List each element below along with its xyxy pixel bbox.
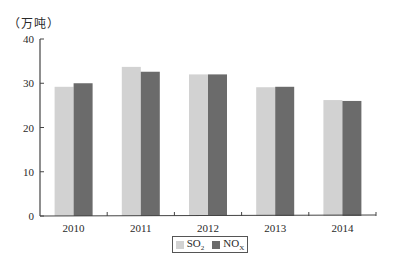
legend-swatch-so2 bbox=[176, 241, 184, 249]
y-tick-label-10: 10 bbox=[23, 166, 35, 178]
bar-nox-2010 bbox=[74, 83, 93, 216]
x-tick-label-2011: 2011 bbox=[130, 222, 152, 234]
y-tick-label-30: 30 bbox=[23, 77, 35, 89]
bar-so2-2013 bbox=[256, 87, 275, 216]
bar-so2-2014 bbox=[323, 100, 342, 216]
chart-legend: SO2 NOX bbox=[172, 236, 248, 253]
bar-so2-2011 bbox=[122, 67, 141, 216]
x-tick-label-2013: 2013 bbox=[264, 222, 287, 234]
x-tick-label-2014: 2014 bbox=[331, 222, 354, 234]
bar-so2-2010 bbox=[55, 87, 74, 216]
bar-so2-2012 bbox=[189, 74, 208, 216]
y-tick-label-20: 20 bbox=[23, 122, 35, 134]
legend-label-so2: SO2 bbox=[187, 237, 205, 252]
bar-nox-2011 bbox=[141, 72, 160, 216]
x-tick-label-2010: 2010 bbox=[63, 222, 86, 234]
x-tick-label-2012: 2012 bbox=[197, 222, 219, 234]
bar-nox-2013 bbox=[275, 87, 294, 216]
y-tick-label-40: 40 bbox=[23, 33, 35, 45]
bar-nox-2012 bbox=[208, 74, 227, 216]
legend-swatch-nox bbox=[212, 241, 220, 249]
legend-item-nox: NOX bbox=[212, 237, 244, 252]
legend-label-nox: NOX bbox=[223, 237, 244, 252]
y-tick-label-0: 0 bbox=[29, 210, 35, 222]
bar-nox-2014 bbox=[342, 101, 361, 216]
bar-chart: 20102011201220132014010203040 bbox=[0, 0, 399, 275]
legend-item-so2: SO2 bbox=[176, 237, 205, 252]
